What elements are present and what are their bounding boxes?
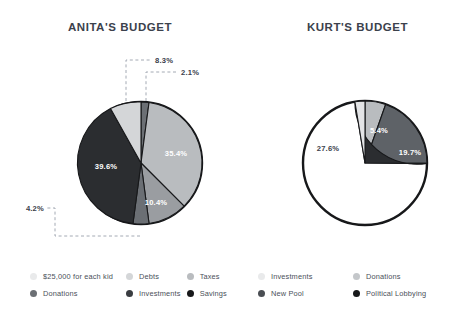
pie-chart-figure: ANITA'S BUDGET 35.4% 10.4%	[0, 0, 475, 316]
legend-label-investments: Investments	[139, 289, 181, 298]
legend-swatch-25000-each-kid	[30, 273, 37, 280]
legend-label-25000-each-kid: $25,000 for each kid	[43, 272, 113, 281]
legend-item-investments[interactable]: Investments	[126, 285, 187, 302]
legend-item-donations-kurt[interactable]: Donations	[353, 268, 463, 285]
legend-swatch-new-pool	[258, 290, 265, 297]
pie-slice-new-pool[interactable]	[355, 102, 427, 164]
legend-swatch-political-lobbying	[353, 290, 360, 297]
slice-label-39-6: 39.6%	[95, 162, 118, 171]
callout-label-8-3: 8.3%	[155, 56, 173, 65]
legend-item-new-pool[interactable]: New Pool	[258, 285, 353, 302]
legend-item-debts[interactable]: Debts	[126, 268, 187, 285]
leader-line-2-1	[146, 72, 178, 101]
pie-kurt-svg: 5.4% 19.7% 47.3% 27.6%	[240, 0, 475, 260]
legend-label-political-lobbying: Political Lobbying	[366, 289, 426, 298]
callout-label-4-2: 4.2%	[26, 204, 44, 213]
pie-slice-taxes[interactable]	[141, 102, 149, 163]
legend-item-savings[interactable]: Savings	[187, 285, 240, 302]
legend-anita-row-2: Donations Investments Savings	[0, 285, 240, 302]
slice-label-27-6: 27.6%	[317, 144, 340, 153]
pie-anita-container: 35.4% 10.4% 39.6% 8.3% 2.1% 4.2%	[0, 0, 240, 260]
pie-slice-25000-each-kid[interactable]	[111, 102, 142, 163]
legend-item-investments-kurt[interactable]: Investments	[258, 268, 353, 285]
leader-line-4-2	[47, 208, 140, 236]
pie-slice-donations[interactable]	[77, 109, 141, 224]
legend-label-new-pool: New Pool	[271, 289, 304, 298]
pie-slice-political-lobbying[interactable]	[365, 104, 427, 163]
slice-label-5-4: 5.4%	[370, 126, 388, 135]
legend-label-debts: Debts	[139, 272, 159, 281]
slice-label-10-4: 10.4%	[145, 198, 168, 207]
legend-swatch-investments-kurt	[258, 273, 265, 280]
legend-kurt: Investments Donations New Pool Political…	[240, 268, 475, 302]
legend-kurt-row-2: New Pool Political Lobbying	[240, 285, 475, 302]
pie-kurt-outline	[303, 101, 427, 225]
legend-label-donations-kurt: Donations	[366, 272, 401, 281]
legend-swatch-taxes	[187, 273, 194, 280]
legend-label-donations: Donations	[43, 289, 78, 298]
pie-slice-investments[interactable]	[141, 163, 184, 223]
pie-anita-outline	[80, 102, 202, 224]
slice-label-19-7: 19.7%	[399, 148, 422, 157]
chart-title-kurt: KURT'S BUDGET	[240, 21, 475, 33]
pie-anita-svg: 35.4% 10.4% 39.6% 8.3% 2.1% 4.2%	[0, 0, 240, 260]
slice-label-35-4: 35.4%	[165, 149, 188, 158]
legend-swatch-donations-kurt	[353, 273, 360, 280]
legend-swatch-donations	[30, 290, 37, 297]
legend-item-taxes[interactable]: Taxes	[187, 268, 240, 285]
legend-label-taxes: Taxes	[200, 272, 220, 281]
legend-kurt-row-1: Investments Donations	[240, 268, 475, 285]
pie-slice-debts[interactable]	[141, 103, 202, 207]
legend-anita: $25,000 for each kid Debts Taxes Donatio…	[0, 268, 240, 302]
callout-label-2-1: 2.1%	[181, 68, 199, 77]
legend-swatch-savings	[187, 290, 194, 297]
pie-slice-donations-kurt[interactable]	[365, 101, 386, 163]
legend-item-donations[interactable]: Donations	[30, 285, 126, 302]
legend-label-investments-kurt: Investments	[271, 272, 313, 281]
legend-item-25000-each-kid[interactable]: $25,000 for each kid	[30, 268, 126, 285]
legend-anita-row-1: $25,000 for each kid Debts Taxes	[0, 268, 240, 285]
legend-swatch-debts	[126, 273, 133, 280]
chart-panel-anita: ANITA'S BUDGET 35.4% 10.4%	[0, 0, 240, 316]
pie-slice-savings[interactable]	[133, 163, 149, 224]
chart-title-anita: ANITA'S BUDGET	[0, 21, 240, 33]
slice-label-47-3: 47.3%	[358, 198, 381, 207]
chart-panel-kurt: KURT'S BUDGET 5.4% 19.7% 47.3% 27.6%	[240, 0, 475, 316]
legend-label-savings: Savings	[200, 289, 227, 298]
legend-item-political-lobbying[interactable]: Political Lobbying	[353, 285, 463, 302]
legend-swatch-investments	[126, 290, 133, 297]
pie-slice-investments-kurt[interactable]	[355, 101, 365, 163]
pie-kurt-container: 5.4% 19.7% 47.3% 27.6%	[240, 0, 475, 260]
leader-line-8-3	[126, 60, 152, 101]
